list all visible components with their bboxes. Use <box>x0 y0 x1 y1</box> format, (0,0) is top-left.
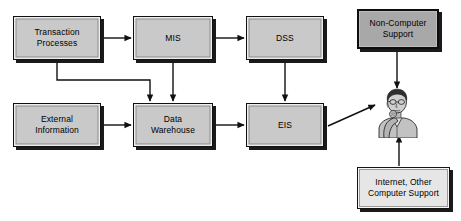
node-label-external-information: External Information <box>33 114 81 136</box>
node-internet-other-computer-support[interactable]: Internet, Other Computer Support <box>357 167 450 209</box>
diagram-canvas: Transaction Processes MIS DSS Non-Comput… <box>0 0 461 221</box>
person-icon <box>374 88 420 138</box>
node-label-transaction-processes: Transaction Processes <box>32 27 81 49</box>
node-label-dss: DSS <box>274 33 296 44</box>
edge-transaction-to-warehouse <box>57 63 150 101</box>
node-data-warehouse[interactable]: Data Warehouse <box>133 103 213 147</box>
node-dss[interactable]: DSS <box>246 16 324 60</box>
node-label-eis: EIS <box>276 120 294 131</box>
node-label-internet-other-computer-support: Internet, Other Computer Support <box>366 177 441 199</box>
node-external-information[interactable]: External Information <box>13 103 101 147</box>
node-label-mis: MIS <box>163 33 182 44</box>
node-eis[interactable]: EIS <box>246 103 324 147</box>
node-non-computer-support[interactable]: Non-Computer Support <box>357 9 439 49</box>
node-transaction-processes[interactable]: Transaction Processes <box>13 16 101 60</box>
edge-eis-to-person <box>328 105 375 126</box>
node-label-non-computer-support: Non-Computer Support <box>368 18 429 40</box>
node-mis[interactable]: MIS <box>133 16 213 60</box>
node-label-data-warehouse: Data Warehouse <box>149 114 197 136</box>
